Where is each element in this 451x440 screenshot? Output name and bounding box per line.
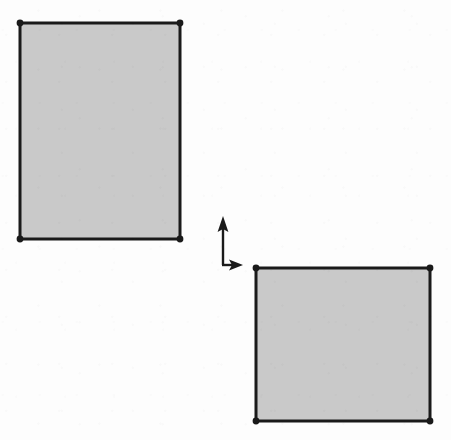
upper-left-rectangle[interactable] [17, 20, 184, 243]
vertex-dot-top-right [427, 265, 434, 272]
figure-canvas [0, 0, 451, 440]
coordinate-axis-indicator [218, 216, 243, 270]
vertex-dot-top-right [177, 20, 184, 27]
diagram-svg [0, 0, 451, 440]
upper-left-rectangle-fill [20, 23, 180, 239]
lower-right-rectangle-fill [256, 268, 430, 421]
vertex-dot-top-left [253, 265, 260, 272]
vertex-dot-top-left [17, 20, 24, 27]
vertex-dot-bottom-left [253, 418, 260, 425]
lower-right-rectangle[interactable] [253, 265, 434, 425]
vertex-dot-bottom-right [177, 236, 184, 243]
vertex-dot-bottom-right [427, 418, 434, 425]
vertex-dot-bottom-left [17, 236, 24, 243]
